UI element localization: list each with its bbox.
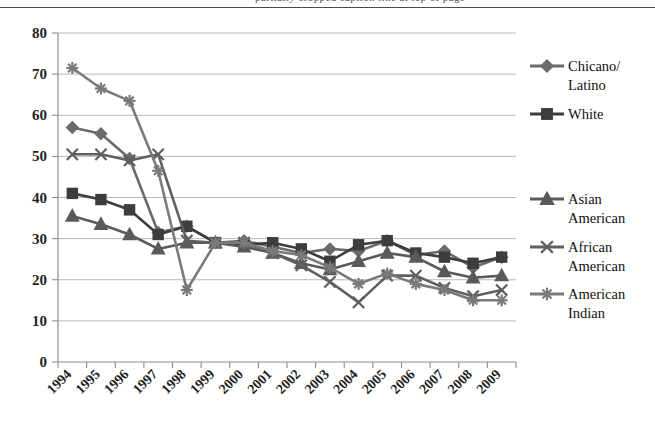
legend-label-line2: American [568, 258, 626, 274]
data-point-marker [382, 247, 393, 257]
data-point-marker [496, 270, 507, 280]
x-tick-label: 2001 [244, 367, 274, 397]
legend-item-1[interactable]: Chicano/Latino [530, 58, 621, 93]
x-tick-label: 1999 [187, 367, 217, 397]
data-point-marker [125, 205, 134, 214]
data-point-marker [181, 284, 193, 296]
data-point-marker [439, 266, 450, 276]
data-point-marker [542, 109, 552, 119]
data-point-marker [440, 253, 449, 262]
y-tick-label: 40 [32, 190, 47, 206]
data-point-marker [124, 229, 135, 239]
y-tick-label: 20 [32, 272, 47, 288]
legend-item-3[interactable]: AsianAmerican [530, 191, 626, 226]
x-axis-tick-labels: 1994199519961997199819992000200120022003… [44, 367, 504, 397]
legend-label: African [568, 239, 613, 255]
data-point-marker [353, 297, 364, 308]
y-tick-label: 70 [32, 66, 47, 82]
y-tick-label: 80 [32, 25, 47, 41]
y-tick-label: 60 [32, 107, 47, 123]
legend-label: White [568, 106, 603, 122]
data-point-marker [67, 122, 77, 132]
data-point-marker [324, 276, 335, 287]
line-chart: 01020304050607080 1994199519961997199819… [0, 0, 655, 424]
data-point-marker [410, 278, 422, 290]
data-point-marker [467, 294, 479, 306]
x-tick-label: 2006 [388, 367, 418, 397]
y-axis-tick-labels: 01020304050607080 [32, 25, 47, 370]
y-tick-label: 0 [40, 354, 48, 370]
y-tick-label: 10 [32, 313, 47, 329]
data-point-marker [153, 243, 164, 253]
data-point-marker [67, 210, 78, 220]
legend-item-4[interactable]: AfricanAmerican [530, 239, 626, 274]
data-point-marker [438, 284, 450, 296]
y-tick-label: 50 [32, 148, 47, 164]
data-point-marker [467, 272, 478, 282]
data-point-marker [542, 61, 553, 72]
gridlines-group [58, 33, 516, 321]
x-tick-label: 2005 [359, 367, 389, 397]
x-tick-label: 2007 [416, 367, 446, 397]
data-point-marker [295, 249, 307, 261]
data-point-marker [96, 195, 105, 204]
data-point-marker [154, 230, 163, 239]
legend-label: Asian [568, 191, 603, 207]
data-point-marker [66, 62, 78, 74]
chart-figure: partially cropped caption line at top of… [0, 0, 655, 424]
legend-label: American [568, 286, 626, 302]
data-point-marker [238, 237, 250, 249]
data-point-marker [267, 245, 279, 257]
data-point-marker [541, 193, 553, 204]
page-top-rule [0, 7, 655, 8]
legend-label-line2: American [568, 210, 626, 226]
x-tick-label: 2000 [216, 367, 246, 397]
series-4 [67, 149, 508, 308]
data-point-marker [152, 165, 164, 177]
chart-legend: Chicano/LatinoWhiteAsianAmericanAfricanA… [530, 58, 626, 321]
y-tick-label: 30 [32, 231, 47, 247]
data-point-marker [95, 219, 106, 229]
data-point-marker [354, 240, 363, 249]
data-point-marker [497, 253, 506, 262]
legend-label-line2: Indian [568, 305, 606, 321]
cropped-caption-descenders: partially cropped caption line at top of… [255, 0, 635, 6]
data-point-marker [209, 237, 221, 249]
x-tick-label: 2009 [473, 367, 503, 397]
data-point-marker [381, 268, 393, 280]
legend-label: Chicano/ [568, 58, 621, 74]
data-point-marker [468, 259, 477, 268]
x-tick-label: 2003 [302, 367, 332, 397]
x-tick-label: 1998 [159, 367, 189, 397]
x-tick-label: 1996 [101, 367, 131, 397]
series-2 [68, 189, 507, 268]
data-point-marker [353, 256, 364, 266]
x-tick-label: 2002 [273, 367, 303, 397]
axes-group [52, 33, 516, 368]
data-point-marker [541, 288, 554, 301]
x-tick-label: 1994 [44, 367, 74, 397]
cropped-caption-text: partially cropped caption line at top of… [255, 0, 465, 3]
data-point-marker [353, 278, 365, 290]
series-line [72, 68, 501, 300]
data-point-marker [95, 83, 107, 95]
x-tick-label: 2004 [330, 367, 360, 397]
data-point-marker [383, 236, 392, 245]
data-point-marker [68, 189, 77, 198]
legend-item-5[interactable]: AmericanIndian [530, 286, 626, 321]
data-point-marker [325, 244, 335, 254]
x-tick-label: 1997 [130, 367, 160, 397]
data-point-marker [124, 95, 136, 107]
legend-label-line2: Latino [568, 77, 606, 93]
data-point-marker [324, 261, 336, 273]
data-point-marker [496, 294, 508, 306]
legend-item-2[interactable]: White [530, 106, 603, 122]
data-series-group [66, 62, 507, 308]
x-tick-label: 1995 [73, 367, 103, 397]
x-tick-label: 2008 [445, 367, 475, 397]
